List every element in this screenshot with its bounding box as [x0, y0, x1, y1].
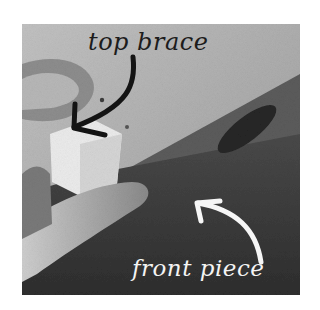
screw-hole	[100, 98, 104, 102]
top-brace-label: top brace	[88, 28, 208, 56]
screw-hole	[125, 125, 129, 129]
front-piece-label: front piece	[132, 255, 264, 281]
photo: top brace front piece	[22, 24, 300, 295]
